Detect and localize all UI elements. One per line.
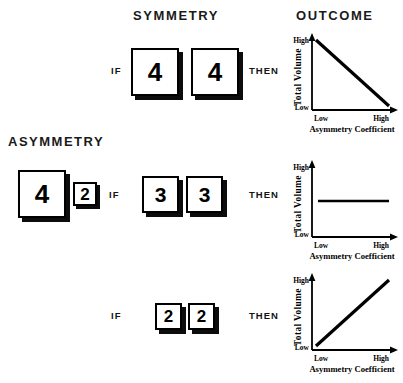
row3-left-box-value: 2: [164, 308, 173, 325]
x-axis-title: Asymmetry Coefficient: [309, 251, 394, 261]
y-tick-high: High: [293, 276, 310, 285]
row3-if-label: IF: [111, 310, 121, 321]
y-axis-arrowhead: [309, 33, 316, 41]
row1-then-label: THEN: [249, 65, 279, 76]
row3-right-box-value: 2: [197, 308, 206, 325]
x-tick-low: Low: [314, 241, 329, 250]
y-axis-arrowhead: [309, 273, 316, 281]
x-tick-high: High: [373, 241, 390, 250]
x-axis-title: Asymmetry Coefficient: [309, 364, 394, 374]
row2-right-box-value: 3: [199, 184, 211, 205]
asymmetry-example-large-value: 4: [35, 181, 49, 207]
x-tick-high: High: [373, 114, 390, 123]
heading-outcome: OUTCOME: [296, 8, 374, 23]
outcome-chart-increasing: High Low Low High Total Volume Asymmetry…: [290, 268, 402, 376]
data-line-increasing: [316, 280, 389, 346]
x-tick-low: Low: [314, 114, 329, 123]
row2-right-box: 3: [186, 176, 223, 213]
y-axis-title: Total Volume: [293, 48, 303, 106]
asymmetry-example-small-box: 2: [73, 182, 97, 206]
outcome-chart-decreasing: High Low Low High Total Volume Asymmetry…: [290, 28, 402, 136]
row3-right-box: 2: [188, 303, 215, 330]
heading-asymmetry: ASYMMETRY: [8, 134, 104, 149]
x-axis-title: Asymmetry Coefficient: [309, 124, 394, 134]
x-tick-low: Low: [314, 354, 329, 363]
y-axis-arrowhead: [309, 160, 316, 168]
x-tick-high: High: [373, 354, 390, 363]
x-axis-arrowhead: [390, 234, 398, 241]
outcome-chart-flat: High Low Low High Total Volume Asymmetry…: [290, 155, 402, 263]
row1-right-box-value: 4: [208, 59, 222, 85]
row3-then-label: THEN: [249, 310, 279, 321]
row2-then-label: THEN: [249, 189, 279, 200]
x-axis-arrowhead: [390, 347, 398, 354]
row1-if-label: IF: [111, 65, 121, 76]
asymmetry-example-small-value: 2: [80, 186, 89, 203]
row1-left-box-value: 4: [148, 59, 162, 85]
y-tick-high: High: [293, 36, 310, 45]
row2-left-box-value: 3: [155, 184, 167, 205]
row2-left-box: 3: [142, 176, 179, 213]
y-axis-title: Total Volume: [293, 288, 303, 346]
heading-symmetry: SYMMETRY: [133, 8, 219, 23]
y-tick-high: High: [293, 163, 310, 172]
row1-left-box: 4: [131, 48, 179, 96]
y-axis-title: Total Volume: [293, 175, 303, 233]
row3-left-box: 2: [155, 303, 182, 330]
row2-if-label: IF: [109, 189, 119, 200]
row1-right-box: 4: [191, 48, 239, 96]
x-axis-arrowhead: [390, 107, 398, 114]
data-line-decreasing: [316, 40, 389, 106]
asymmetry-example-large-box: 4: [18, 170, 66, 218]
